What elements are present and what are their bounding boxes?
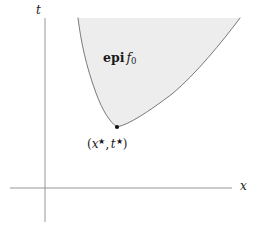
point-label-comma: , [105,137,109,151]
optimal-point-marker [115,125,119,129]
t-axis-label: t [36,4,41,16]
epigraph-figure: t x epif0 (x★,t★) [0,0,260,228]
x-axis-label: x [240,180,247,192]
epigraph-label-epi: epi [103,50,124,65]
point-label-close-paren: ) [123,137,128,151]
epigraph-label-subscript: 0 [131,56,136,66]
figure-canvas [0,0,260,228]
point-label-t-star: ★ [116,137,123,146]
epigraph-fill [78,18,240,127]
epigraph-label: epif0 [103,52,137,65]
optimal-point-label: (x★,t★) [87,138,127,150]
